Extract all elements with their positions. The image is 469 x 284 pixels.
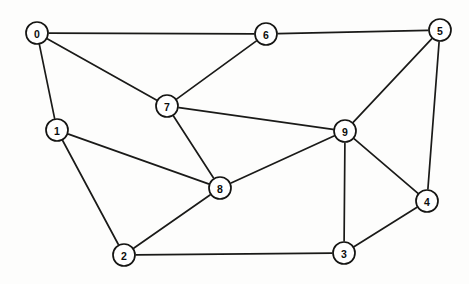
graph-edge-1-2 (63, 141, 118, 245)
node-circle-0 (26, 22, 48, 44)
node-circle-9 (334, 120, 356, 142)
graph-edge-4-9 (354, 139, 417, 193)
graph-edge-0-6 (49, 33, 254, 34)
node-circle-2 (113, 244, 135, 266)
graph-node-3[interactable]: 3 (333, 242, 355, 264)
graph-node-1[interactable]: 1 (46, 119, 68, 141)
graph-canvas: 0123456789 (0, 0, 469, 284)
graph-edge-8-9 (231, 136, 334, 183)
node-circle-1 (46, 119, 68, 141)
graph-edge-3-9 (344, 143, 345, 241)
node-circle-5 (429, 19, 451, 41)
graph-node-7[interactable]: 7 (156, 95, 178, 117)
node-circle-4 (416, 190, 438, 212)
graph-edge-5-9 (353, 39, 431, 122)
graph-node-2[interactable]: 2 (113, 244, 135, 266)
graph-edge-0-1 (39, 45, 54, 118)
graph-node-6[interactable]: 6 (255, 23, 277, 45)
graph-node-4[interactable]: 4 (416, 190, 438, 212)
graph-edge-2-8 (134, 195, 210, 248)
graph-diagram: 0123456789 (0, 0, 469, 284)
node-circle-7 (156, 95, 178, 117)
node-circle-3 (333, 242, 355, 264)
graph-edge-4-5 (428, 42, 439, 189)
graph-node-5[interactable]: 5 (429, 19, 451, 41)
graph-edge-5-6 (278, 30, 428, 33)
edge-layer (39, 30, 439, 255)
graph-edge-0-7 (48, 39, 157, 100)
graph-edge-3-4 (354, 207, 416, 246)
graph-edge-7-9 (179, 108, 333, 130)
graph-edge-7-8 (174, 116, 214, 178)
graph-node-0[interactable]: 0 (26, 22, 48, 44)
node-circle-6 (255, 23, 277, 45)
graph-edge-6-7 (177, 41, 256, 99)
graph-node-8[interactable]: 8 (209, 177, 231, 199)
graph-edge-1-8 (68, 134, 208, 184)
graph-edge-2-3 (136, 253, 332, 255)
graph-node-9[interactable]: 9 (334, 120, 356, 142)
node-circle-8 (209, 177, 231, 199)
